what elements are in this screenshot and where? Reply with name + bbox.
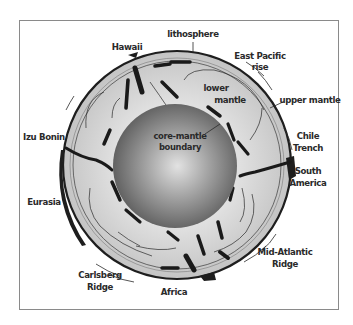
label-chile-trench-line1: Chile [297,131,320,141]
label-hawaii: Hawaii [112,42,143,52]
label-chile-trench-line2: Trench [293,143,323,153]
label-lower-mantle-line1: lower [203,83,229,93]
label-core-mantle-line1: core-mantle [153,131,207,141]
label-mid-atlantic-line2: Ridge [272,259,298,269]
label-mid-atlantic-line1: Mid-Atlantic [258,247,313,257]
label-south-america-line2: America [289,178,327,188]
label-carlsberg-ridge-line1: Carlsberg [78,270,122,280]
label-eurasia: Eurasia [27,197,61,207]
core-sphere [113,104,237,228]
label-core-mantle-line2: boundary [159,142,202,152]
label-south-america-line1: South [295,166,322,176]
label-izu-bonin: Izu Bonin [23,132,65,142]
label-east-pacific-rise-line1: East Pacific [234,51,286,61]
label-carlsberg-ridge-line2: Ridge [87,282,113,292]
label-africa: Africa [161,287,188,297]
label-east-pacific-rise-line2: rise [252,62,269,72]
label-upper-mantle: upper mantle [279,95,341,105]
mantle-convection-diagram: lithosphere Hawaii East Pacific rise low… [0,0,353,325]
label-lithosphere: lithosphere [167,29,219,39]
label-lower-mantle-line2: mantle [214,95,246,105]
